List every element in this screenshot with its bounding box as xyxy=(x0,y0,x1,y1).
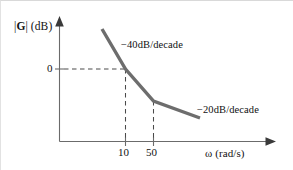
slope-annotation-minus-20: −20dB/decade xyxy=(197,105,259,116)
y-axis-label: |G| (dB) xyxy=(14,21,52,33)
x-axis-arrowhead xyxy=(266,137,277,146)
y-axis-arrowhead xyxy=(55,16,64,27)
slope-annotation-minus-40: −40dB/decade xyxy=(121,40,183,51)
x-tick-label-50: 50 xyxy=(146,147,157,158)
x-tick-label-10: 10 xyxy=(118,147,129,158)
x-axis-label: ω (rad/s) xyxy=(205,148,245,159)
y-axis-label-suffix: | (dB) xyxy=(25,20,52,32)
bode-plot-figure: |G| (dB) 0 10 50 ω (rad/s) −40dB/decade … xyxy=(0,0,293,170)
y-tick-label-0: 0 xyxy=(47,63,53,74)
